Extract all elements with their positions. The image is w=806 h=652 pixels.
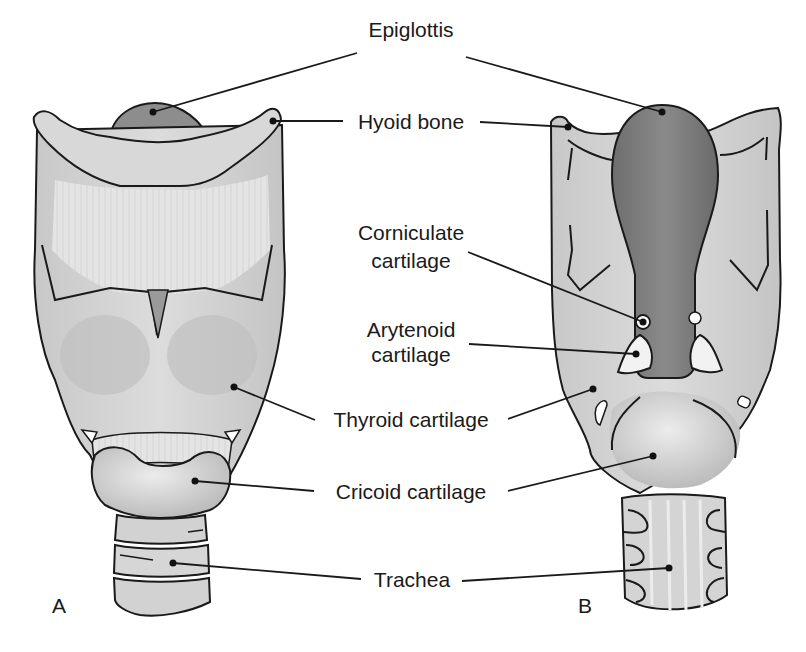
label-arytenoid-cartilage-line1: Arytenoid — [367, 318, 456, 341]
larynx-diagram: Epiglottis Hyoid bone Corniculate cartil… — [0, 0, 806, 652]
panel-label-b: B — [578, 594, 592, 617]
label-arytenoid-cartilage-line2: cartilage — [371, 343, 450, 366]
panel-a-anterior-view — [34, 103, 285, 616]
label-trachea: Trachea — [374, 568, 451, 591]
label-cricoid-cartilage: Cricoid cartilage — [336, 480, 487, 503]
label-epiglottis: Epiglottis — [368, 18, 453, 41]
label-corniculate-cartilage-line2: cartilage — [371, 249, 450, 272]
label-thyroid-cartilage: Thyroid cartilage — [333, 408, 488, 431]
trachea-posterior — [622, 494, 727, 610]
panel-label-a: A — [52, 594, 66, 617]
label-corniculate-cartilage-line1: Corniculate — [358, 221, 464, 244]
label-hyoid-bone: Hyoid bone — [358, 110, 464, 133]
thyrohyoid-membrane — [52, 175, 270, 295]
panel-b-posterior-view — [551, 105, 781, 610]
